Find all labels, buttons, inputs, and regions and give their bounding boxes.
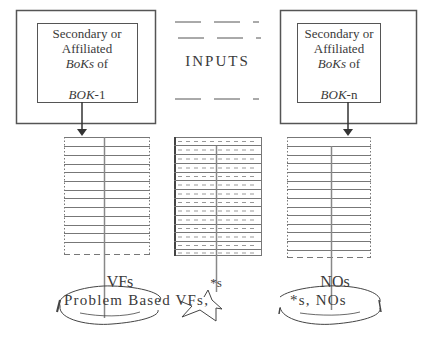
left-box-line4: BOK-1: [37, 88, 137, 103]
left-box-line2: Affiliated: [37, 42, 137, 57]
middle-grid: [174, 137, 262, 292]
inputs-label: INPUTS: [165, 53, 270, 70]
right-box-boks: BoKs: [318, 56, 346, 71]
right-box-text: Secondary or Affiliated BoKs of BOK-n: [297, 27, 381, 103]
left-box-bok-num: -1: [95, 87, 106, 102]
problem-based-vfs-text: Problem Based VFs,: [64, 292, 209, 309]
right-box-line3: BoKs of: [297, 57, 381, 72]
left-box-boks: BoKs: [66, 56, 94, 71]
right-box-line4: BOK-n: [297, 88, 381, 103]
left-box-line3: BoKs of: [37, 57, 137, 72]
right-box-of: of: [346, 56, 360, 71]
right-box-bok: BOK: [321, 87, 347, 102]
right-box-line2: Affiliated: [297, 42, 381, 57]
left-arrow-head: [77, 129, 87, 136]
nos-label: NOs: [305, 273, 365, 291]
vfs-label: VFs: [90, 273, 150, 291]
right-arrow-head: [343, 129, 353, 136]
left-box-text: Secondary or Affiliated BoKs of BOK-1: [37, 27, 137, 103]
left-box-bok: BOK: [69, 87, 95, 102]
stars-nos-text: *s, NOs: [290, 292, 347, 309]
right-box-line1: Secondary or: [297, 27, 381, 42]
left-box-of: of: [94, 56, 108, 71]
stars-label: *s: [196, 276, 236, 291]
right-box-bok-num: -n: [347, 87, 358, 102]
left-box-line1: Secondary or: [37, 27, 137, 42]
